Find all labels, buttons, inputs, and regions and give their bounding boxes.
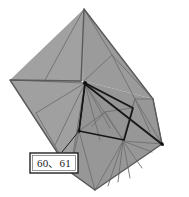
upper-left-wing-face (10, 9, 84, 81)
origami-diagram: 60、61 (0, 0, 189, 197)
callout-label: 60、61 (37, 157, 71, 169)
vertex-bottom-right (160, 142, 163, 145)
vertex-apex (83, 81, 87, 85)
part-number-callout[interactable]: 60、61 (30, 153, 78, 173)
origami-figure-container: 60、61 (0, 0, 189, 197)
